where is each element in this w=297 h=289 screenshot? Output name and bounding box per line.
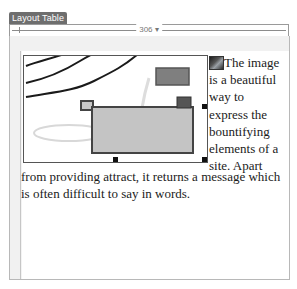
layout-table-top-row <box>10 36 289 51</box>
design-view-canvas: Layout Table 306 ▾ The image is a beauti… <box>0 0 297 289</box>
text-line: bountifying <box>209 123 284 140</box>
drawing-image[interactable] <box>23 55 208 163</box>
text-line: is a beautiful <box>209 71 284 88</box>
text-line: The image <box>209 54 284 71</box>
text-line: elements of a <box>209 140 284 157</box>
layout-table-left-column <box>10 51 21 279</box>
resize-handle-bottom[interactable] <box>113 157 118 162</box>
text-line: is often difficult to say in words. <box>21 185 287 202</box>
drawing-illustration <box>24 56 207 162</box>
paragraph-continuation: from providing attract, it returns a mes… <box>21 168 287 202</box>
table-width-dropdown[interactable]: 306 ▾ <box>136 24 162 35</box>
resize-handle-corner[interactable] <box>202 157 207 162</box>
ruler-tick <box>19 27 20 33</box>
text-line: from providing attract, it returns a mes… <box>21 168 287 185</box>
wrapped-paragraph: The image is a beautiful way to express … <box>209 54 284 174</box>
text-line: way to <box>209 88 284 105</box>
text-line: express the <box>209 106 284 123</box>
resize-handle-right[interactable] <box>202 104 207 109</box>
